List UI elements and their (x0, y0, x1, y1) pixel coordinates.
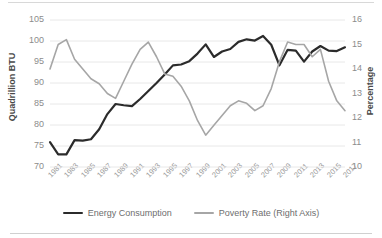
series-lines (50, 36, 345, 154)
legend-label: Poverty Rate (Right Axis) (219, 208, 320, 218)
plot-area (0, 0, 382, 238)
chart-container: Quadrillion BTU Percentage 1051009590858… (0, 0, 382, 238)
legend-item[interactable]: Poverty Rate (Right Axis) (194, 208, 320, 218)
chart-legend: Energy ConsumptionPoverty Rate (Right Ax… (0, 208, 382, 218)
series-line-0 (50, 36, 345, 154)
legend-swatch-line-icon (194, 212, 214, 214)
legend-item[interactable]: Energy Consumption (63, 208, 172, 218)
legend-swatch-line-icon (63, 212, 83, 215)
legend-label: Energy Consumption (88, 208, 172, 218)
gridlines (50, 20, 345, 167)
